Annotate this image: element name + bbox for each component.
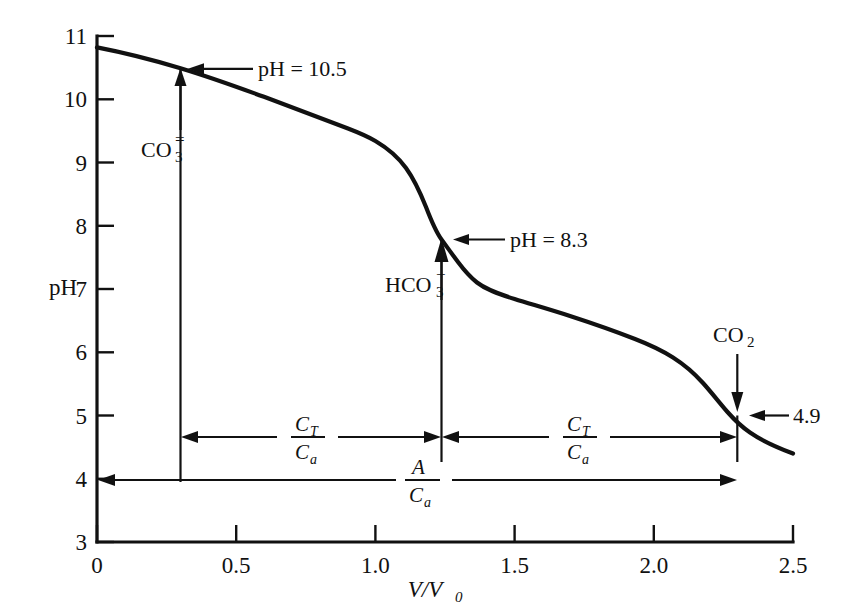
y-tick-label-7: 7 [76,277,88,302]
co2-downarrow-head [731,392,743,412]
annotation-label-ph-10-5: pH = 10.5 [258,56,347,81]
axes [97,36,793,542]
bracket-right-arrow-end [720,431,737,443]
bracket-right-numerator: C [567,412,582,436]
ph-8-3-arrowhead [453,234,469,245]
y-axis-ticks [97,36,114,542]
x-axis-title-subscript: 0 [455,589,463,605]
bracket-left-denominator: C [295,440,310,464]
bracket-right-arrow-start [442,431,459,443]
x-axis-title: V/V 0 [408,577,463,605]
species-hco3-charge: − [436,265,446,284]
bracket-ct-ca-right: C T C a [442,412,737,467]
species-hco3-subscript: 3 [436,284,444,300]
bracket-right-denominator-subscript: a [582,452,589,467]
y-tick-label-10: 10 [64,87,87,112]
x-axis-title-main: V/V [408,577,445,602]
annotation-label-ph-4-9: 4.9 [793,403,821,428]
bracket-aca-numerator: A [410,455,425,479]
bracket-left-denominator-subscript: a [310,452,317,467]
x-tick-label-2.5: 2.5 [779,553,808,578]
x-axis-tick-labels: 0 0.5 1.0 1.5 2.0 2.5 [91,553,807,578]
bracket-aca-arrow-end [720,474,737,486]
species-co2-subscript: 2 [747,334,755,350]
y-tick-label-4: 4 [76,467,88,492]
bracket-left-arrow-end [424,431,441,443]
bracket-right-denominator: C [567,440,582,464]
species-label-hco3: HCO 3 − [385,265,446,300]
species-co3-charge: = [175,130,185,149]
x-tick-label-0.5: 0.5 [222,553,251,578]
y-tick-label-6: 6 [76,340,88,365]
y-tick-label-11: 11 [65,24,87,49]
x-tick-label-1.0: 1.0 [361,553,390,578]
species-co3-main: CO [141,137,172,162]
titration-curve-figure: 11 10 9 8 7 6 5 4 3 pH 0 0.5 1.0 1.5 2.0 [0,0,850,605]
bracket-a-ca: A C a [98,455,737,510]
bracket-aca-denominator-subscript: a [424,495,431,510]
ph-8-3-uparrow-head [435,238,449,262]
species-co3-subscript: 3 [175,149,183,165]
species-hco3-main: HCO [385,272,431,297]
y-tick-label-3: 3 [76,530,88,555]
bracket-aca-denominator: C [409,483,424,507]
bracket-left-arrow-start [181,431,198,443]
annotation-label-ph-8-3: pH = 8.3 [510,227,588,252]
bracket-ct-ca-left: C T C a [181,412,441,467]
species-label-co3: CO 3 = [141,130,185,165]
y-tick-label-8: 8 [76,214,88,239]
marker-lines [181,69,738,482]
x-tick-label-1.5: 1.5 [500,553,529,578]
y-tick-label-5: 5 [76,404,88,429]
chart-svg: 11 10 9 8 7 6 5 4 3 pH 0 0.5 1.0 1.5 2.0 [0,0,850,605]
x-tick-label-2.0: 2.0 [639,553,668,578]
bracket-left-numerator: C [295,412,310,436]
annotation-ph-4-9: 4.9 [749,403,821,428]
species-label-co2: CO 2 [713,322,755,412]
y-tick-label-9: 9 [76,151,88,176]
ph-4-9-arrowhead [749,410,765,421]
bracket-aca-arrow-start [98,474,115,486]
x-tick-label-0: 0 [91,553,103,578]
y-axis-title: pH [49,275,77,300]
x-axis-ticks [97,525,793,542]
species-co2-main: CO [713,322,744,347]
